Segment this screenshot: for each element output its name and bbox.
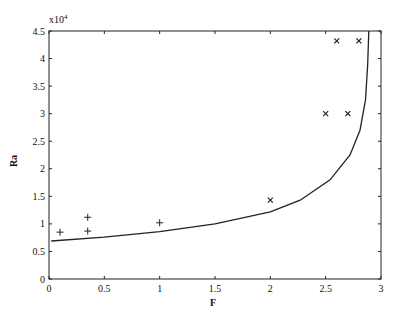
chart: 00.511.522.5300.511.522.533.544.5 F Ra x… (0, 0, 393, 321)
x-tick-label: 3 (379, 283, 384, 294)
x-marker (268, 198, 273, 203)
y-tick-label: 1.5 (33, 191, 46, 202)
y-tick-label: 3 (40, 108, 45, 119)
x-tick-label: 1 (157, 283, 162, 294)
plus-marker (156, 219, 163, 226)
y-tick-label: 2.5 (33, 136, 46, 147)
x-axis-label: F (210, 297, 216, 308)
ticks (49, 31, 381, 279)
plus-marker (84, 228, 91, 235)
y-multiplier: x104 (49, 13, 68, 25)
plot-frame (49, 31, 381, 279)
plus-marker (84, 214, 91, 221)
y-tick-label: 3.5 (33, 81, 46, 92)
x-tick-label: 1.5 (209, 283, 222, 294)
y-tick-label: 2 (40, 163, 45, 174)
x-tick-label: 0.5 (98, 283, 111, 294)
x-marker (345, 111, 350, 116)
x-marker (356, 38, 361, 43)
data-markers (57, 38, 362, 235)
x-marker (334, 38, 339, 43)
x-marker (323, 111, 328, 116)
y-tick-label: 0 (40, 274, 45, 285)
tick-labels: 00.511.522.5300.511.522.533.544.5 (33, 26, 384, 295)
x-tick-label: 2.5 (319, 283, 332, 294)
y-axis-label: Ra (8, 155, 19, 167)
x-tick-label: 2 (268, 283, 273, 294)
curve-line (51, 31, 369, 241)
y-tick-label: 4.5 (33, 26, 46, 37)
y-tick-label: 1 (40, 218, 45, 229)
y-tick-label: 0.5 (33, 246, 46, 257)
plus-marker (57, 229, 64, 236)
x-tick-label: 0 (47, 283, 52, 294)
y-tick-label: 4 (40, 53, 45, 64)
